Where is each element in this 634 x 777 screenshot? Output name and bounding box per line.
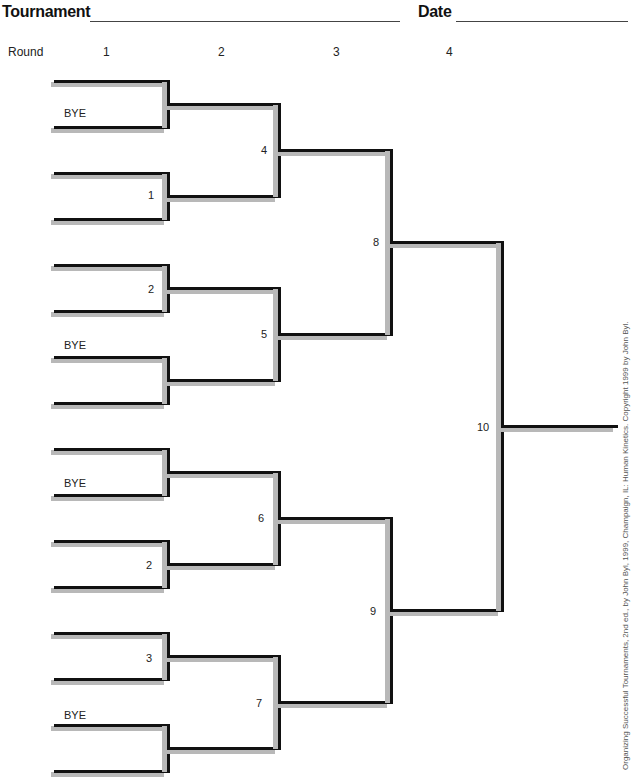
round-1-slot[interactable] [54,632,169,635]
round-1-slot[interactable] [54,80,169,83]
game-number: 6 [258,512,264,524]
round-label: Round [8,45,43,59]
round-2-slot[interactable] [167,379,280,382]
round-1-slot[interactable] [54,126,169,129]
seed-label: 2 [148,283,154,295]
round-1-slot[interactable] [54,724,169,727]
round-3-slot[interactable] [278,517,392,520]
seed-label: 2 [146,559,152,571]
round-3-header: 3 [333,45,340,59]
round-3-slot[interactable] [278,149,392,152]
round-1-slot[interactable] [54,494,169,497]
round-2-slot[interactable] [167,471,280,474]
tournament-label: Tournament [2,3,90,21]
round-1-header: 1 [103,45,110,59]
round-3-slot[interactable] [278,701,392,704]
round-1-slot[interactable] [54,356,169,359]
round-1-slot[interactable] [54,310,169,313]
date-label: Date [418,3,451,21]
game-number: 4 [261,144,267,156]
round-2-slot[interactable] [167,747,280,750]
game-number: 7 [256,697,262,709]
round-3-slot[interactable] [278,333,392,336]
round-1-slot[interactable] [54,172,169,175]
bye-label: BYE [64,339,86,351]
bye-label: BYE [64,477,86,489]
round-4-header: 4 [446,45,453,59]
round-2-slot[interactable] [167,287,280,290]
game-number: 5 [261,328,267,340]
round-1-slot[interactable] [54,218,169,221]
round-2-slot[interactable] [167,655,280,658]
seed-label: 1 [148,189,154,201]
game-number: 8 [373,236,379,248]
round-2-slot[interactable] [167,563,280,566]
round-1-slot[interactable] [54,448,169,451]
round-1-slot[interactable] [54,540,169,543]
round-1-slot[interactable] [54,770,169,773]
date-field[interactable] [456,21,628,22]
bye-label: BYE [64,709,86,721]
game-number: 10 [477,421,489,433]
round-4-slot[interactable] [390,609,503,612]
round-1-slot[interactable] [54,586,169,589]
seed-label: 3 [146,652,152,664]
tournament-name-field[interactable] [90,21,400,22]
winner-slot[interactable] [501,425,618,428]
round-2-slot[interactable] [167,195,280,198]
copyright-credit: Organizing Successful Tournaments, 2nd e… [621,321,630,770]
round-1-slot[interactable] [54,402,169,405]
round-1-slot[interactable] [54,678,169,681]
round-2-slot[interactable] [167,103,280,106]
round-1-slot[interactable] [54,264,169,267]
game-number: 9 [370,605,376,617]
round-4-slot[interactable] [390,241,503,244]
round-2-header: 2 [218,45,225,59]
bye-label: BYE [64,107,86,119]
